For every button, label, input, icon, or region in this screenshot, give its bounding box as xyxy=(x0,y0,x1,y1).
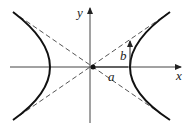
y-axis-label: y xyxy=(75,5,83,20)
a-label: a xyxy=(108,69,115,84)
b-label: b xyxy=(120,48,127,63)
hyperbola-diagram: y x b a xyxy=(0,0,190,130)
x-axis-label: x xyxy=(175,68,182,83)
origin-point xyxy=(91,65,96,70)
hyperbola-right-branch xyxy=(130,12,170,120)
hyperbola-left-branch xyxy=(13,12,50,120)
